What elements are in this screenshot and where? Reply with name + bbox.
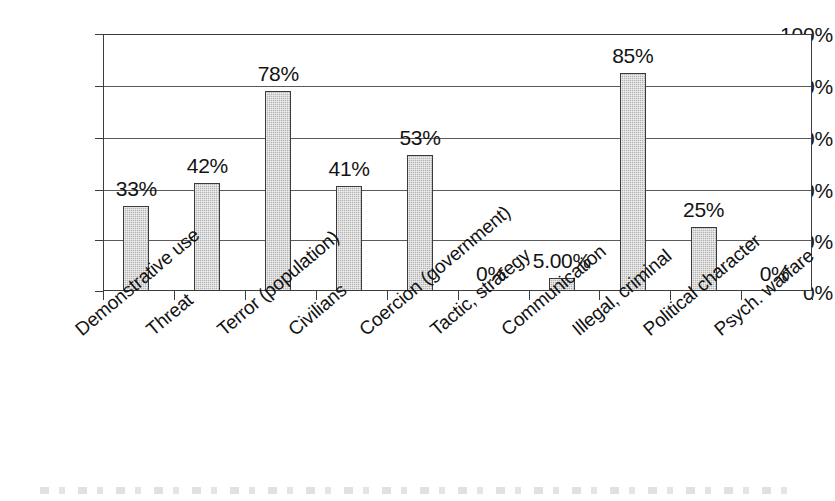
bar-7: [620, 73, 646, 291]
value-label-2: 78%: [218, 63, 338, 84]
category-label-1: Threat: [143, 290, 196, 339]
scan-artifact: [40, 487, 800, 494]
x-tick-mark-10: [812, 291, 813, 300]
value-label-0: 33%: [76, 178, 196, 199]
value-label-1: 42%: [147, 155, 267, 176]
gridline-80: [104, 86, 811, 87]
value-label-7: 85%: [573, 45, 693, 66]
value-label-3: 41%: [289, 158, 409, 179]
value-label-8: 25%: [644, 199, 764, 220]
value-label-4: 53%: [360, 127, 480, 148]
